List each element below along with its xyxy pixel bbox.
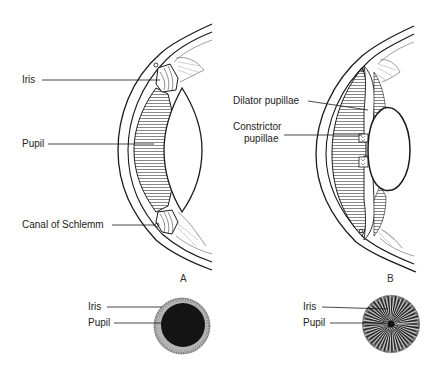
- label-iris-front-a: Iris: [88, 301, 101, 312]
- front-view-a: [154, 298, 210, 354]
- label-pupil-front-a: Pupil: [88, 317, 110, 328]
- label-iris-a: Iris: [22, 74, 35, 85]
- label-constrictor: Constrictor: [233, 121, 282, 132]
- anterior-chamber-b: [332, 68, 367, 236]
- canal-of-schlemm-upper-a: [154, 63, 158, 67]
- lens-b: [368, 107, 410, 190]
- label-constrictor-pupillae: pupillae: [244, 133, 279, 144]
- pupil-dilated: [161, 303, 205, 347]
- panel-b-section: [316, 26, 416, 272]
- pupil-constricted: [388, 321, 395, 328]
- sclera-thin-a: [174, 40, 212, 62]
- front-view-b: [362, 295, 420, 353]
- label-canal-of-schlemm: Canal of Schlemm: [22, 219, 104, 230]
- iris-upper-a: [156, 64, 178, 92]
- label-pupil-a: Pupil: [22, 138, 44, 149]
- panel-a-section: [118, 24, 212, 270]
- constrictor-pupillae-lower: [359, 157, 368, 167]
- eye-diagram: Iris Pupil Canal of Schlemm A Dilator: [0, 0, 439, 370]
- panel-label-a: A: [180, 273, 187, 284]
- label-dilator-pupillae: Dilator pupillae: [233, 95, 300, 106]
- panel-label-b: B: [387, 273, 394, 284]
- sclera-thin-b: [176, 236, 212, 254]
- label-pupil-front-b: Pupil: [303, 317, 325, 328]
- label-iris-front-b: Iris: [303, 301, 316, 312]
